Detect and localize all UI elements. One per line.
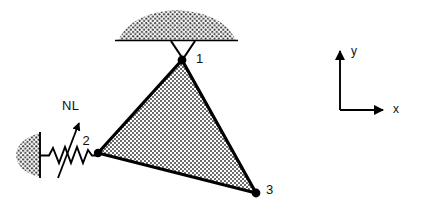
- mechanics-diagram: 1 2 3 NL y x: [0, 0, 434, 211]
- node-3-marker: [252, 189, 261, 198]
- top-support-hatch: [118, 10, 236, 40]
- y-axis-label: y: [351, 44, 357, 58]
- node-2-label: 2: [82, 133, 89, 148]
- nonlinear-force-label: NL: [62, 98, 79, 113]
- left-support-hatch: [16, 133, 39, 177]
- node-1-marker: [178, 56, 187, 65]
- triangular-element: [98, 60, 256, 193]
- x-axis-label: x: [393, 102, 399, 116]
- node-1-label: 1: [196, 51, 203, 66]
- pin-leg-right: [183, 41, 195, 59]
- coordinate-axes: y x: [340, 44, 399, 116]
- node-3-label: 3: [266, 182, 273, 197]
- figure-canvas: 1 2 3 NL y x: [0, 0, 434, 211]
- pin-support-top: [115, 10, 238, 41]
- node-2-marker: [94, 149, 102, 157]
- wall-support-left: [16, 132, 40, 178]
- element-body: [98, 60, 256, 193]
